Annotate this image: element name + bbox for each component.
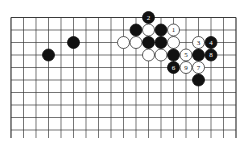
move-number-label: 5 [184, 51, 188, 59]
black-stone [155, 37, 167, 49]
black-stone [130, 24, 142, 36]
black-stone [155, 24, 167, 36]
move-number-label: 9 [184, 64, 188, 72]
black-stone: 2 [143, 12, 155, 24]
white-stone [168, 37, 180, 49]
black-stone [68, 37, 80, 49]
white-stone [130, 37, 142, 49]
white-stone [155, 49, 167, 61]
white-stone: 1 [168, 24, 180, 36]
white-stone: 3 [193, 37, 205, 49]
move-number-label: 1 [172, 26, 176, 34]
stones-layer: 213458697 [43, 12, 218, 87]
white-stone: 7 [193, 62, 205, 74]
white-stone: 5 [180, 49, 192, 61]
move-number-label: 6 [172, 64, 176, 72]
move-number-label: 3 [197, 39, 201, 47]
black-stone: 6 [168, 62, 180, 74]
black-stone [43, 49, 55, 61]
move-number-label: 4 [209, 39, 213, 47]
black-stone: 8 [205, 49, 217, 61]
white-stone [143, 24, 155, 36]
white-stone [118, 37, 130, 49]
black-stone: 4 [205, 37, 217, 49]
black-stone [193, 49, 205, 61]
black-stone [193, 74, 205, 86]
move-number-label: 8 [209, 51, 213, 59]
move-number-label: 2 [147, 14, 151, 22]
white-stone: 9 [180, 62, 192, 74]
black-stone [168, 49, 180, 61]
move-number-label: 7 [197, 64, 201, 72]
go-board-diagram: 213458697 [0, 0, 242, 145]
black-stone [143, 37, 155, 49]
white-stone [143, 49, 155, 61]
